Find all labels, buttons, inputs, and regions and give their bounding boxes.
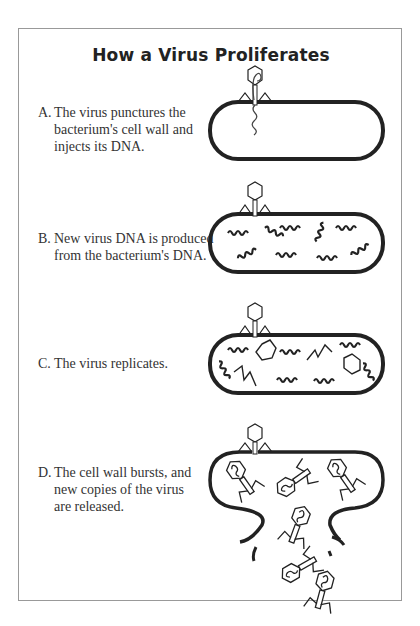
cell-c-icon bbox=[210, 303, 383, 393]
cell-a-icon bbox=[210, 66, 383, 159]
virus-illustration bbox=[0, 0, 420, 626]
cell-b-icon bbox=[210, 182, 383, 272]
cell-d-icon bbox=[210, 424, 383, 614]
